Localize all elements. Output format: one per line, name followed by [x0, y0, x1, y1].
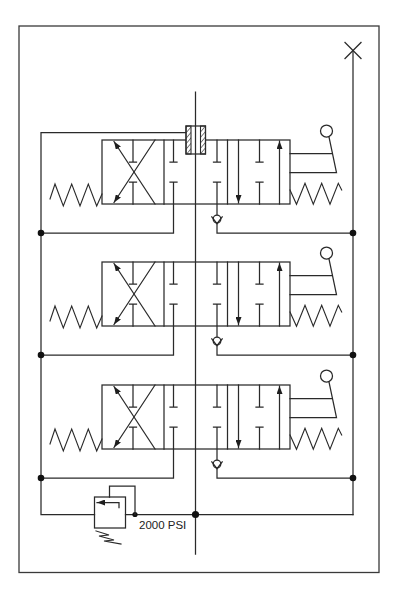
- relief-pressure-label: 2000 PSI: [139, 519, 186, 531]
- directional-valve-2: [38, 247, 357, 358]
- junction-dot: [192, 511, 199, 518]
- directional-valve-3: [38, 370, 357, 481]
- hydraulic-schematic: 2000 PSI: [0, 0, 397, 592]
- diagram-frame: [19, 26, 379, 573]
- relief-spring-icon: [96, 531, 121, 544]
